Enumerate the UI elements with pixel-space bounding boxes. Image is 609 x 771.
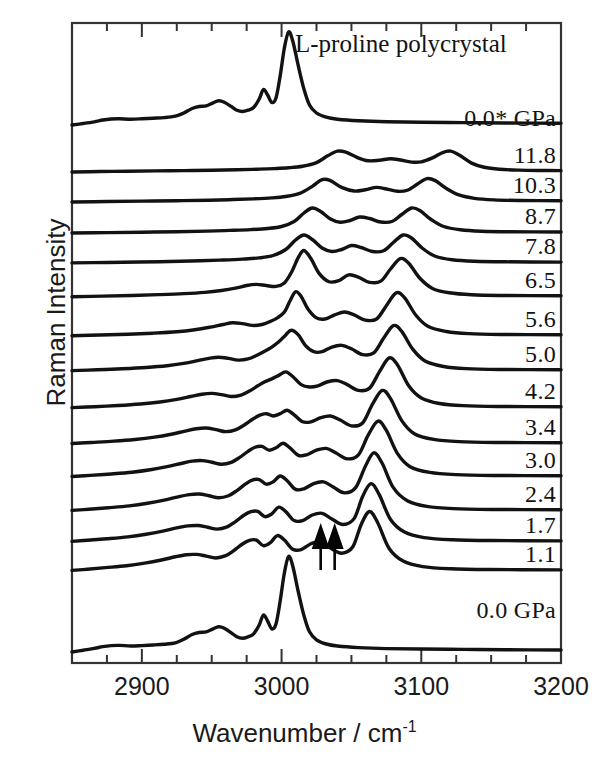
- trace-label-0-0-gpa: 0.0* GPa: [464, 105, 556, 132]
- y-axis-label: Raman Intensity: [41, 163, 72, 463]
- trace-label-1-7: 1.7: [525, 512, 556, 539]
- trace-label-0-0-gpa: 0.0 GPa: [477, 597, 556, 624]
- trace-label-1-1: 1.1: [525, 541, 556, 568]
- x-tick-label: 3200: [533, 672, 589, 701]
- trace-label-11-8: 11.8: [514, 142, 556, 169]
- trace-label-5-6: 5.6: [525, 306, 556, 333]
- x-axis-label: Wavenumber / cm-1: [0, 718, 609, 749]
- trace-label-8-7: 8.7: [525, 203, 556, 230]
- trace-label-6-5: 6.5: [525, 267, 556, 294]
- x-axis-label-text: Wavenumber / cm: [192, 718, 402, 748]
- raman-spectra-figure: L-proline polycrystal Raman Intensity Wa…: [0, 0, 609, 771]
- x-tick-label: 3100: [393, 672, 449, 701]
- page-title: L-proline polycrystal: [295, 30, 507, 58]
- x-tick-label: 2900: [114, 672, 170, 701]
- trace-label-5-0: 5.0: [525, 341, 556, 368]
- trace-label-10-3: 10.3: [513, 172, 556, 199]
- trace-label-7-8: 7.8: [525, 233, 556, 260]
- trace-label-4-2: 4.2: [525, 378, 556, 405]
- x-tick-label: 3000: [254, 672, 310, 701]
- trace-label-3-4: 3.4: [525, 414, 556, 441]
- trace-label-2-4: 2.4: [525, 481, 556, 508]
- x-axis-label-exponent: -1: [402, 718, 416, 735]
- trace-label-3-0: 3.0: [525, 447, 556, 474]
